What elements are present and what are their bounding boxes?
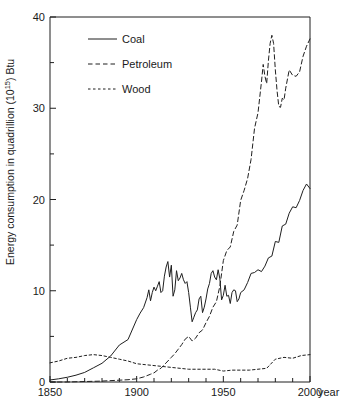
x-tick-label-1950: 1950 <box>211 386 235 398</box>
y-axis-title-prefix: Energy consumption in quadrillion (10 <box>4 89 16 265</box>
series-line-coal <box>50 184 310 380</box>
y-tick-label-30: 30 <box>33 102 45 114</box>
data-series-group <box>50 35 310 382</box>
x-axis-title: year <box>318 386 340 398</box>
legend: Coal Petroleum Wood <box>88 33 172 95</box>
legend-label-wood: Wood <box>122 83 151 95</box>
series-line-petroleum <box>50 35 310 382</box>
x-axis-tick-labels: 1850 1900 1950 2000 year <box>38 386 340 398</box>
y-axis-title-suffix: ) Btu <box>4 59 16 81</box>
y-tick-label-10: 10 <box>33 285 45 297</box>
y-axis-title-superscript: 15 <box>3 81 12 89</box>
legend-label-coal: Coal <box>122 33 145 45</box>
x-axis-minor-ticks <box>67 378 292 382</box>
x-tick-label-1850: 1850 <box>38 386 62 398</box>
y-axis-tick-labels: 0 10 20 30 40 <box>33 11 45 388</box>
series-line-wood <box>50 355 310 371</box>
y-axis-title: Energy consumption in quadrillion (1015)… <box>3 59 16 265</box>
chart-canvas: Energy consumption in quadrillion (1015)… <box>0 0 349 412</box>
y-tick-label-40: 40 <box>33 11 45 23</box>
plot-frame <box>50 17 310 382</box>
energy-consumption-chart: Energy consumption in quadrillion (1015)… <box>0 0 349 412</box>
x-tick-label-1900: 1900 <box>124 386 148 398</box>
y-tick-label-20: 20 <box>33 194 45 206</box>
legend-label-petroleum: Petroleum <box>122 58 172 70</box>
y-axis-major-ticks <box>50 17 56 382</box>
